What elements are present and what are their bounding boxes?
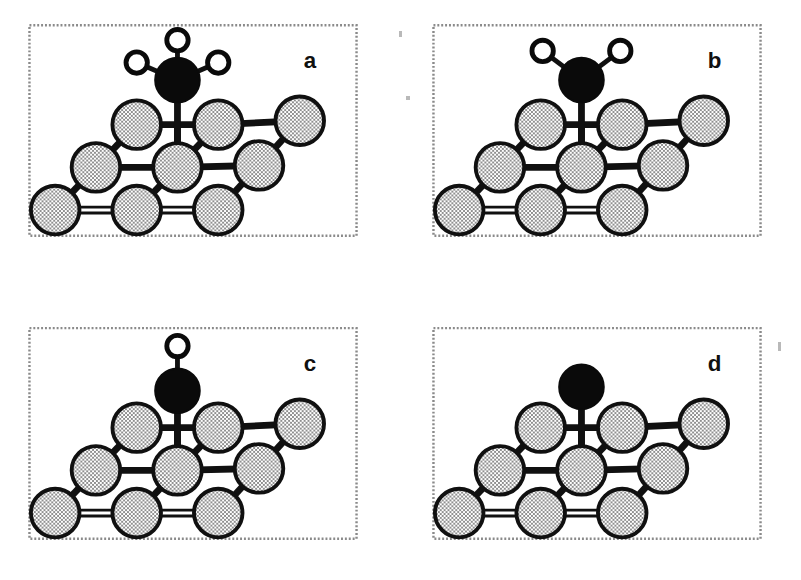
surface-atom-bottom-0 (31, 186, 80, 235)
surface-atom-top-2 (276, 97, 325, 146)
surface-atom-middle-1 (153, 446, 202, 495)
panel-label-d: d (708, 351, 722, 376)
surface-atom-middle-1 (557, 143, 606, 192)
adsorbate-CH2 (532, 40, 631, 102)
surface-atom-bottom-1 (516, 186, 565, 235)
panel-c: c (28, 323, 358, 535)
panel-a: a (28, 20, 358, 232)
panel-c-canvas: c (28, 323, 358, 575)
surface-atom-bottom-2 (598, 489, 647, 538)
surface-atom-bottom-1 (112, 489, 161, 538)
surface-atom-top-1 (194, 403, 243, 452)
surface-atom-top-0 (516, 403, 565, 452)
surface-atom-top-1 (598, 403, 647, 452)
carbon-atom (559, 58, 604, 103)
surface-atom-top-2 (680, 400, 729, 449)
panel-d-canvas: d (432, 323, 762, 575)
hydrogen-atom-0 (532, 40, 553, 61)
surface-atom-middle-0 (476, 143, 525, 192)
surface-atom-top-2 (680, 97, 729, 146)
hydrogen-atom-1 (167, 30, 188, 51)
surface-atom-middle-2 (235, 141, 284, 190)
surface-atom-middle-0 (72, 446, 121, 495)
carbon-atom (155, 368, 200, 413)
surface-atom-middle-2 (235, 444, 284, 493)
surface-atom-top-0 (112, 403, 161, 452)
carbon-atom (559, 365, 604, 410)
surface-atom-middle-0 (72, 143, 121, 192)
surface-atom-top-1 (194, 100, 243, 149)
surface-atom-middle-2 (639, 444, 688, 493)
surface-atom-bottom-1 (112, 186, 161, 235)
carbon-atom (155, 58, 200, 103)
surface-atom-bottom-0 (31, 489, 80, 538)
surface-atom-bottom-1 (516, 489, 565, 538)
surface-atom-bottom-2 (194, 489, 243, 538)
panel-label-c: c (304, 351, 316, 376)
hydrogen-atom-0 (167, 335, 188, 356)
surface-atom-middle-1 (557, 446, 606, 495)
adsorbate-CH3 (126, 30, 229, 103)
surface-atom-middle-1 (153, 143, 202, 192)
hydrogen-atom-2 (208, 52, 229, 73)
surface-atom-bottom-0 (435, 489, 484, 538)
surface-atom-bottom-2 (194, 186, 243, 235)
surface-atom-middle-2 (639, 141, 688, 190)
panel-label-a: a (304, 48, 317, 73)
figure-root: abcd (0, 0, 801, 580)
hydrogen-atom-0 (126, 52, 147, 73)
adsorbate-CH (155, 335, 200, 413)
panel-a-canvas: a (28, 20, 358, 272)
panel-label-b: b (708, 48, 722, 73)
hydrogen-atom-1 (610, 40, 631, 61)
surface-atom-top-0 (516, 100, 565, 149)
surface-atom-top-0 (112, 100, 161, 149)
panel-b-canvas: b (432, 20, 762, 272)
surface-atom-bottom-0 (435, 186, 484, 235)
surface-atom-top-2 (276, 400, 325, 449)
surface-atom-middle-0 (476, 446, 525, 495)
surface-atom-top-1 (598, 100, 647, 149)
scan-speck-top (399, 31, 402, 37)
panel-d: d (432, 323, 762, 535)
surface-atom-bottom-2 (598, 186, 647, 235)
adsorbate-C (559, 365, 604, 410)
scan-speck-right (778, 342, 781, 351)
scan-speck-left (406, 96, 410, 100)
panel-b: b (432, 20, 762, 232)
